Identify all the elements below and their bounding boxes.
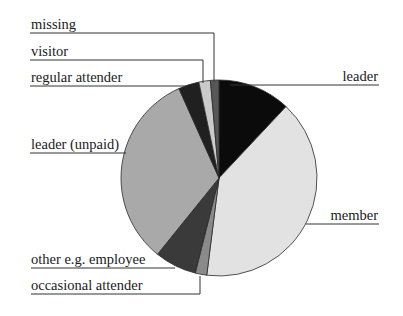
label-visitor: visitor xyxy=(31,43,68,59)
label-missing: missing xyxy=(31,16,76,32)
pie-chart: missing visitor regular attender leader … xyxy=(0,0,403,316)
label-leader: leader xyxy=(343,68,379,84)
label-regular-attender: regular attender xyxy=(31,69,123,85)
label-occasional-attender: occasional attender xyxy=(31,277,143,293)
pie-slices xyxy=(121,80,317,276)
label-leader-unpaid: leader (unpaid) xyxy=(31,136,119,153)
label-member: member xyxy=(330,207,378,223)
label-other-employee: other e.g. employee xyxy=(31,251,145,267)
